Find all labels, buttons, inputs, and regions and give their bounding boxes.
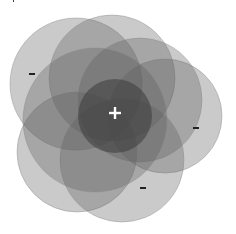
minus-icon — [140, 187, 146, 189]
minus-icon — [29, 73, 35, 75]
overlapping-circles-diagram — [0, 0, 236, 234]
minus-icon — [193, 127, 199, 129]
